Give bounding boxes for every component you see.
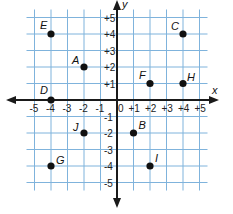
x-tick-label: -2: [79, 103, 88, 114]
point-h: [179, 80, 186, 87]
x-tick-label: -3: [63, 103, 72, 114]
point-label-e: E: [40, 19, 48, 31]
x-axis-label: x: [211, 84, 218, 96]
x-axis-right-arrow-icon: [209, 96, 219, 104]
point-label-c: C: [171, 20, 179, 32]
y-tick-label: +3: [104, 46, 116, 57]
point-j: [80, 129, 87, 136]
x-tick-label: +3: [162, 103, 174, 114]
y-tick-label: +4: [104, 29, 116, 40]
point-label-f: F: [139, 69, 147, 81]
point-label-h: H: [187, 71, 195, 83]
y-tick-label: +5: [104, 13, 116, 24]
point-g: [47, 162, 54, 169]
y-tick-label: -1: [104, 112, 113, 123]
y-tick-label: +2: [104, 62, 116, 73]
point-e: [47, 30, 54, 37]
x-tick-label: -4: [46, 103, 55, 114]
point-label-i: I: [155, 152, 158, 164]
coordinate-plane: xy -5-4-3-2-10+1+2+3+4+5+5+4+3+2+1-1-2-3…: [0, 0, 233, 214]
x-axis-left-arrow-icon: [6, 96, 16, 104]
y-axis-up-arrow-icon: [113, 0, 121, 10]
point-b: [130, 129, 137, 136]
y-tick-label: -3: [104, 145, 113, 156]
point-a: [80, 63, 87, 70]
x-tick-label: -5: [30, 103, 39, 114]
point-label-j: J: [72, 121, 79, 133]
point-label-d: D: [40, 84, 48, 96]
y-axis-label: y: [121, 0, 129, 10]
x-tick-label: +4: [178, 103, 190, 114]
point-d: [47, 96, 54, 103]
point-label-a: A: [71, 54, 79, 66]
x-tick-label: +1: [129, 103, 141, 114]
x-tick-label: +5: [195, 103, 207, 114]
point-label-g: G: [56, 154, 65, 166]
x-tick-label: +2: [145, 103, 157, 114]
y-tick-label: -2: [104, 128, 113, 139]
y-tick-label: -4: [104, 161, 113, 172]
y-tick-label: -5: [104, 178, 113, 189]
y-tick-label: +1: [104, 79, 116, 90]
point-c: [179, 30, 186, 37]
point-i: [146, 162, 153, 169]
point-f: [146, 80, 153, 87]
y-axis-down-arrow-icon: [113, 198, 121, 208]
x-tick-label: 0: [118, 103, 124, 114]
point-label-b: B: [139, 119, 146, 131]
